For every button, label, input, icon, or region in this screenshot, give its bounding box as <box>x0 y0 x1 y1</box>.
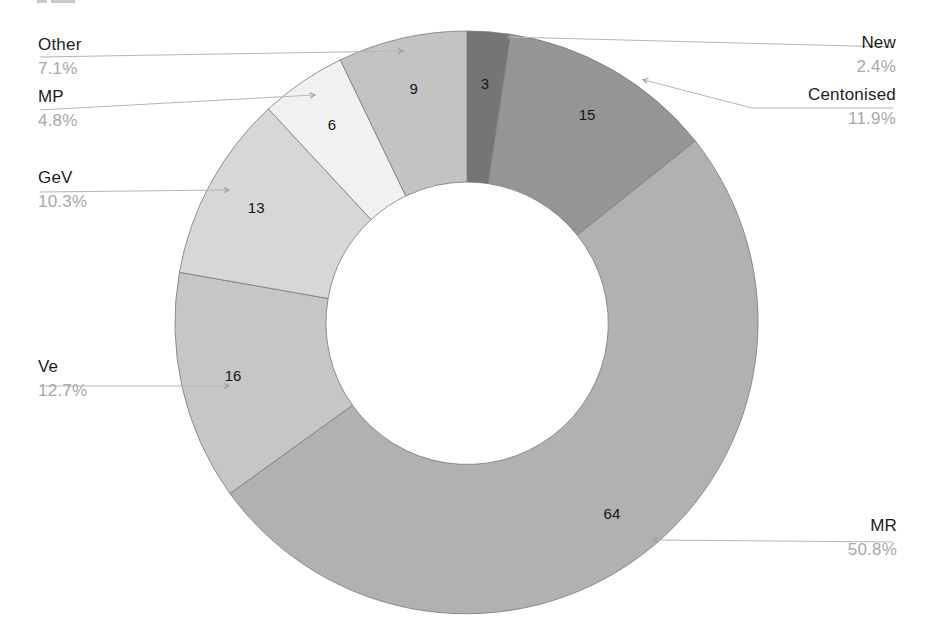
callout-other: Other 7.1% <box>38 36 82 78</box>
percent-label-mr: 50.8% <box>848 541 897 559</box>
slice-value-new: 3 <box>481 75 489 92</box>
percent-label-centonised: 11.9% <box>808 110 896 128</box>
callout-centonised: Centonised 11.9% <box>808 86 896 128</box>
donut-chart: 31564161369 <box>0 0 926 632</box>
percent-label-new: 2.4% <box>856 58 896 76</box>
percent-label-mp: 4.8% <box>38 112 78 130</box>
category-label-mr: MR <box>848 517 897 535</box>
category-label-gev: GeV <box>38 169 87 187</box>
callout-new: New 2.4% <box>856 34 896 76</box>
category-label-centonised: Centonised <box>808 86 896 104</box>
percent-label-ve: 12.7% <box>38 382 87 400</box>
slice-value-gev: 13 <box>248 199 265 216</box>
category-label-other: Other <box>38 36 82 54</box>
category-label-new: New <box>856 34 896 52</box>
leader-line-new <box>508 37 893 47</box>
callout-mr: MR 50.8% <box>848 517 897 559</box>
category-label-ve: Ve <box>38 358 87 376</box>
callout-ve: Ve 12.7% <box>38 358 87 400</box>
category-label-mp: MP <box>38 88 78 106</box>
callout-mp: MP 4.8% <box>38 88 78 130</box>
slice-value-ve: 16 <box>225 367 242 384</box>
scanned-donut-chart-figure: 31564161369 Other 7.1% MP 4.8% GeV 10.3%… <box>0 0 926 632</box>
callout-gev: GeV 10.3% <box>38 169 87 211</box>
slice-value-mp: 6 <box>328 116 336 133</box>
slice-value-other: 9 <box>409 80 417 97</box>
slice-value-mr: 64 <box>604 505 621 522</box>
percent-label-gev: 10.3% <box>38 193 87 211</box>
slice-value-centonised: 15 <box>579 106 596 123</box>
percent-label-other: 7.1% <box>38 60 82 78</box>
